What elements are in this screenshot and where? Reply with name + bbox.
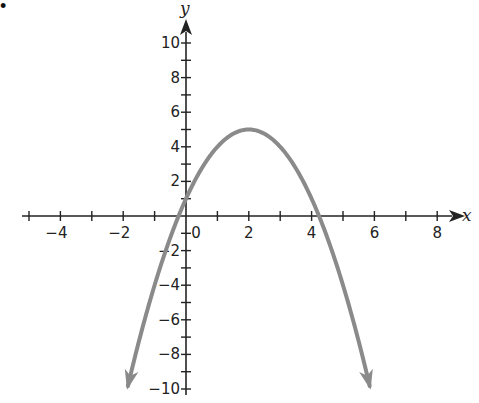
y-tick-label: 4 — [170, 138, 180, 156]
y-tick-label: 6 — [170, 103, 180, 121]
x-axis-label: x — [462, 205, 472, 225]
x-tick-label: 0 — [191, 224, 201, 242]
x-tick-label: 8 — [432, 224, 442, 242]
y-tick-label: 2 — [170, 172, 180, 190]
y-tick-label: −6 — [158, 311, 180, 329]
x-tick-label: 4 — [307, 224, 317, 242]
x-tick-label: −2 — [108, 224, 130, 242]
y-tick-label: −4 — [158, 276, 180, 294]
x-tick-label: 2 — [244, 224, 254, 242]
y-axis-label: y — [179, 0, 190, 18]
parabola-chart: −4−202468108642−2−4−6−8−10 x y — [0, 0, 479, 403]
axes — [22, 19, 465, 395]
y-tick-label: 10 — [161, 34, 180, 52]
x-tick-label: −4 — [45, 224, 67, 242]
y-tick-label: 8 — [170, 69, 180, 87]
y-tick-label: −8 — [158, 345, 180, 363]
y-tick-label: −10 — [148, 380, 180, 398]
x-tick-label: 6 — [370, 224, 380, 242]
